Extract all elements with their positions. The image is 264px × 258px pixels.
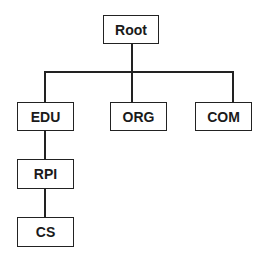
node-cs: CS: [17, 217, 74, 247]
connector-to-edu: [44, 71, 46, 102]
connector-horizontal-bar: [44, 71, 233, 73]
node-edu: EDU: [17, 102, 74, 131]
node-root: Root: [103, 15, 159, 44]
connector-root-stem: [131, 43, 133, 102]
connector-to-com: [232, 71, 234, 102]
domain-tree-diagram: Root EDU ORG COM RPI CS: [0, 0, 264, 258]
node-rpi: RPI: [17, 159, 74, 189]
connector-edu-rpi: [44, 130, 46, 159]
node-org: ORG: [110, 102, 167, 131]
node-com: COM: [195, 102, 252, 131]
connector-rpi-cs: [44, 188, 46, 217]
